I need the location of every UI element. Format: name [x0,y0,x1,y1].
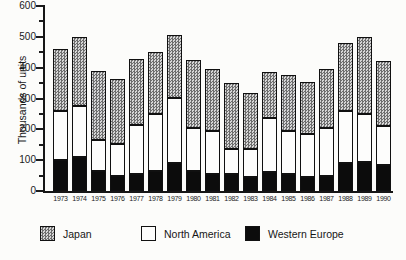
stacked-bar-chart-figure: Thousands of units 0100200300400500600 1… [0,0,406,260]
bar-1988-japan [338,43,353,111]
y-tick-300 [36,98,43,100]
bar-1977-north-america [129,125,144,174]
legend-label-western-europe: Western Europe [268,227,344,241]
y-tick-400 [36,67,43,69]
bar-1975-japan [91,71,106,140]
japan-hatched-swatch-icon [40,226,55,241]
bar-1973-japan [53,49,68,111]
bar-1985-japan [281,75,296,131]
bar-1984-north-america [262,118,277,172]
y-tick-label-400: 400 [6,63,36,73]
bar-1977-western-europe [129,174,144,191]
bar-1973-north-america [53,111,68,160]
y-tick-label-500: 500 [6,32,36,42]
y-tick-350 [39,82,43,84]
y-tick-label-300: 300 [6,94,36,104]
bar-1975-western-europe [91,171,106,191]
bar-1990-north-america [376,126,391,165]
bar-1990-japan [376,61,391,126]
bar-1988-north-america [338,111,353,163]
y-tick-600 [36,5,43,7]
bar-1985-western-europe [281,174,296,191]
bar-1979-japan [167,35,182,98]
y-tick-50 [39,175,43,177]
y-tick-label-0: 0 [6,186,36,196]
bar-1980-western-europe [186,171,201,191]
bar-1986-north-america [300,134,315,177]
bar-1980-north-america [186,128,201,171]
bar-1990-western-europe [376,165,391,191]
bar-1987-north-america [319,128,334,176]
bar-1979-western-europe [167,163,182,191]
y-tick-100 [36,159,43,161]
bar-1984-japan [262,72,277,118]
bar-1983-western-europe [243,177,258,191]
y-tick-label-200: 200 [6,124,36,134]
bar-1984-western-europe [262,172,277,191]
bar-1978-western-europe [148,171,163,191]
y-axis-line [43,5,45,193]
bar-1974-western-europe [72,157,87,191]
bar-1987-western-europe [319,176,334,191]
bar-1974-japan [72,37,87,106]
y-tick-label-600: 600 [6,1,36,11]
bar-1986-japan [300,82,315,134]
x-tick-label-1990: 1990 [373,195,395,203]
y-tick-450 [39,51,43,53]
bar-1979-north-america [167,98,182,163]
bar-1981-north-america [205,131,220,174]
bar-1982-japan [224,83,239,149]
bar-1978-north-america [148,114,163,171]
legend-label-japan: Japan [63,227,92,241]
bar-1976-north-america [110,144,125,176]
bar-1988-western-europe [338,163,353,191]
y-tick-250 [39,113,43,115]
bar-1985-north-america [281,131,296,174]
bar-1982-north-america [224,149,239,174]
y-tick-0 [36,190,43,192]
bar-1982-western-europe [224,174,239,191]
legend-label-north-america: North America [164,227,231,241]
bar-1989-western-europe [357,162,372,191]
y-tick-550 [39,20,43,22]
bar-1981-western-europe [205,174,220,191]
north-america-white-swatch-icon [141,226,156,241]
western-europe-black-swatch-icon [245,226,260,241]
y-tick-200 [36,128,43,130]
y-tick-label-100: 100 [6,155,36,165]
bar-1974-north-america [72,106,87,157]
bar-1975-north-america [91,140,106,171]
x-axis-line [43,191,393,193]
bar-1978-japan [148,52,163,114]
bar-1977-japan [129,59,144,125]
bar-1981-japan [205,69,220,131]
bar-1976-japan [110,79,125,144]
bar-1989-japan [357,37,372,114]
bar-1989-north-america [357,114,372,162]
y-tick-150 [39,144,43,146]
bar-1986-western-europe [300,177,315,191]
bar-1976-western-europe [110,176,125,191]
bar-1987-japan [319,69,334,128]
y-tick-500 [36,36,43,38]
bar-1983-north-america [243,149,258,177]
bar-1983-japan [243,93,258,149]
bar-1973-western-europe [53,160,68,191]
bar-1980-japan [186,60,201,128]
